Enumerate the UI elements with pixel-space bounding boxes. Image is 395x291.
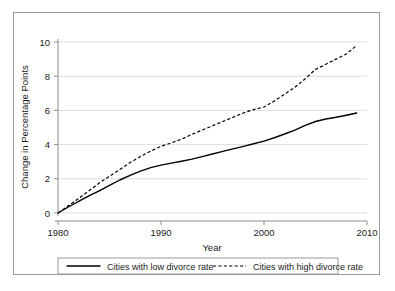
y-tick-label-8: 8: [45, 71, 50, 82]
chart-figure: 10 8 6 4 2 0 Change in Percentage Points…: [13, 12, 380, 275]
y-axis: 10 8 6 4 2 0 Change in Percentage Points: [19, 37, 58, 219]
x-tick-label-2010: 2010: [356, 227, 377, 238]
line-chart: 10 8 6 4 2 0 Change in Percentage Points…: [14, 13, 381, 276]
y-tick-label-6: 6: [45, 105, 50, 116]
y-tick-label-2: 2: [45, 173, 50, 184]
y-tick-label-10: 10: [39, 37, 50, 48]
x-tick-label-1990: 1990: [150, 227, 171, 238]
x-axis-title: Year: [202, 242, 221, 253]
x-tick-label-1980: 1980: [47, 227, 68, 238]
x-tick-label-2000: 2000: [253, 227, 274, 238]
y-tick-label-0: 0: [45, 208, 50, 219]
legend-label-low-divorce-rate: Cities with low divorce rate: [107, 262, 214, 272]
y-tick-label-4: 4: [45, 139, 50, 150]
x-axis: 1980 1990 2000 2010 Year: [47, 221, 377, 253]
legend-label-high-divorce-rate: Cities with high divorce rate: [253, 262, 363, 272]
chart-legend: Cities with low divorce rate Cities with…: [58, 258, 363, 274]
data-series: [58, 45, 357, 213]
series-line-high-divorce-rate: [58, 45, 357, 213]
y-axis-title: Change in Percentage Points: [19, 65, 30, 189]
